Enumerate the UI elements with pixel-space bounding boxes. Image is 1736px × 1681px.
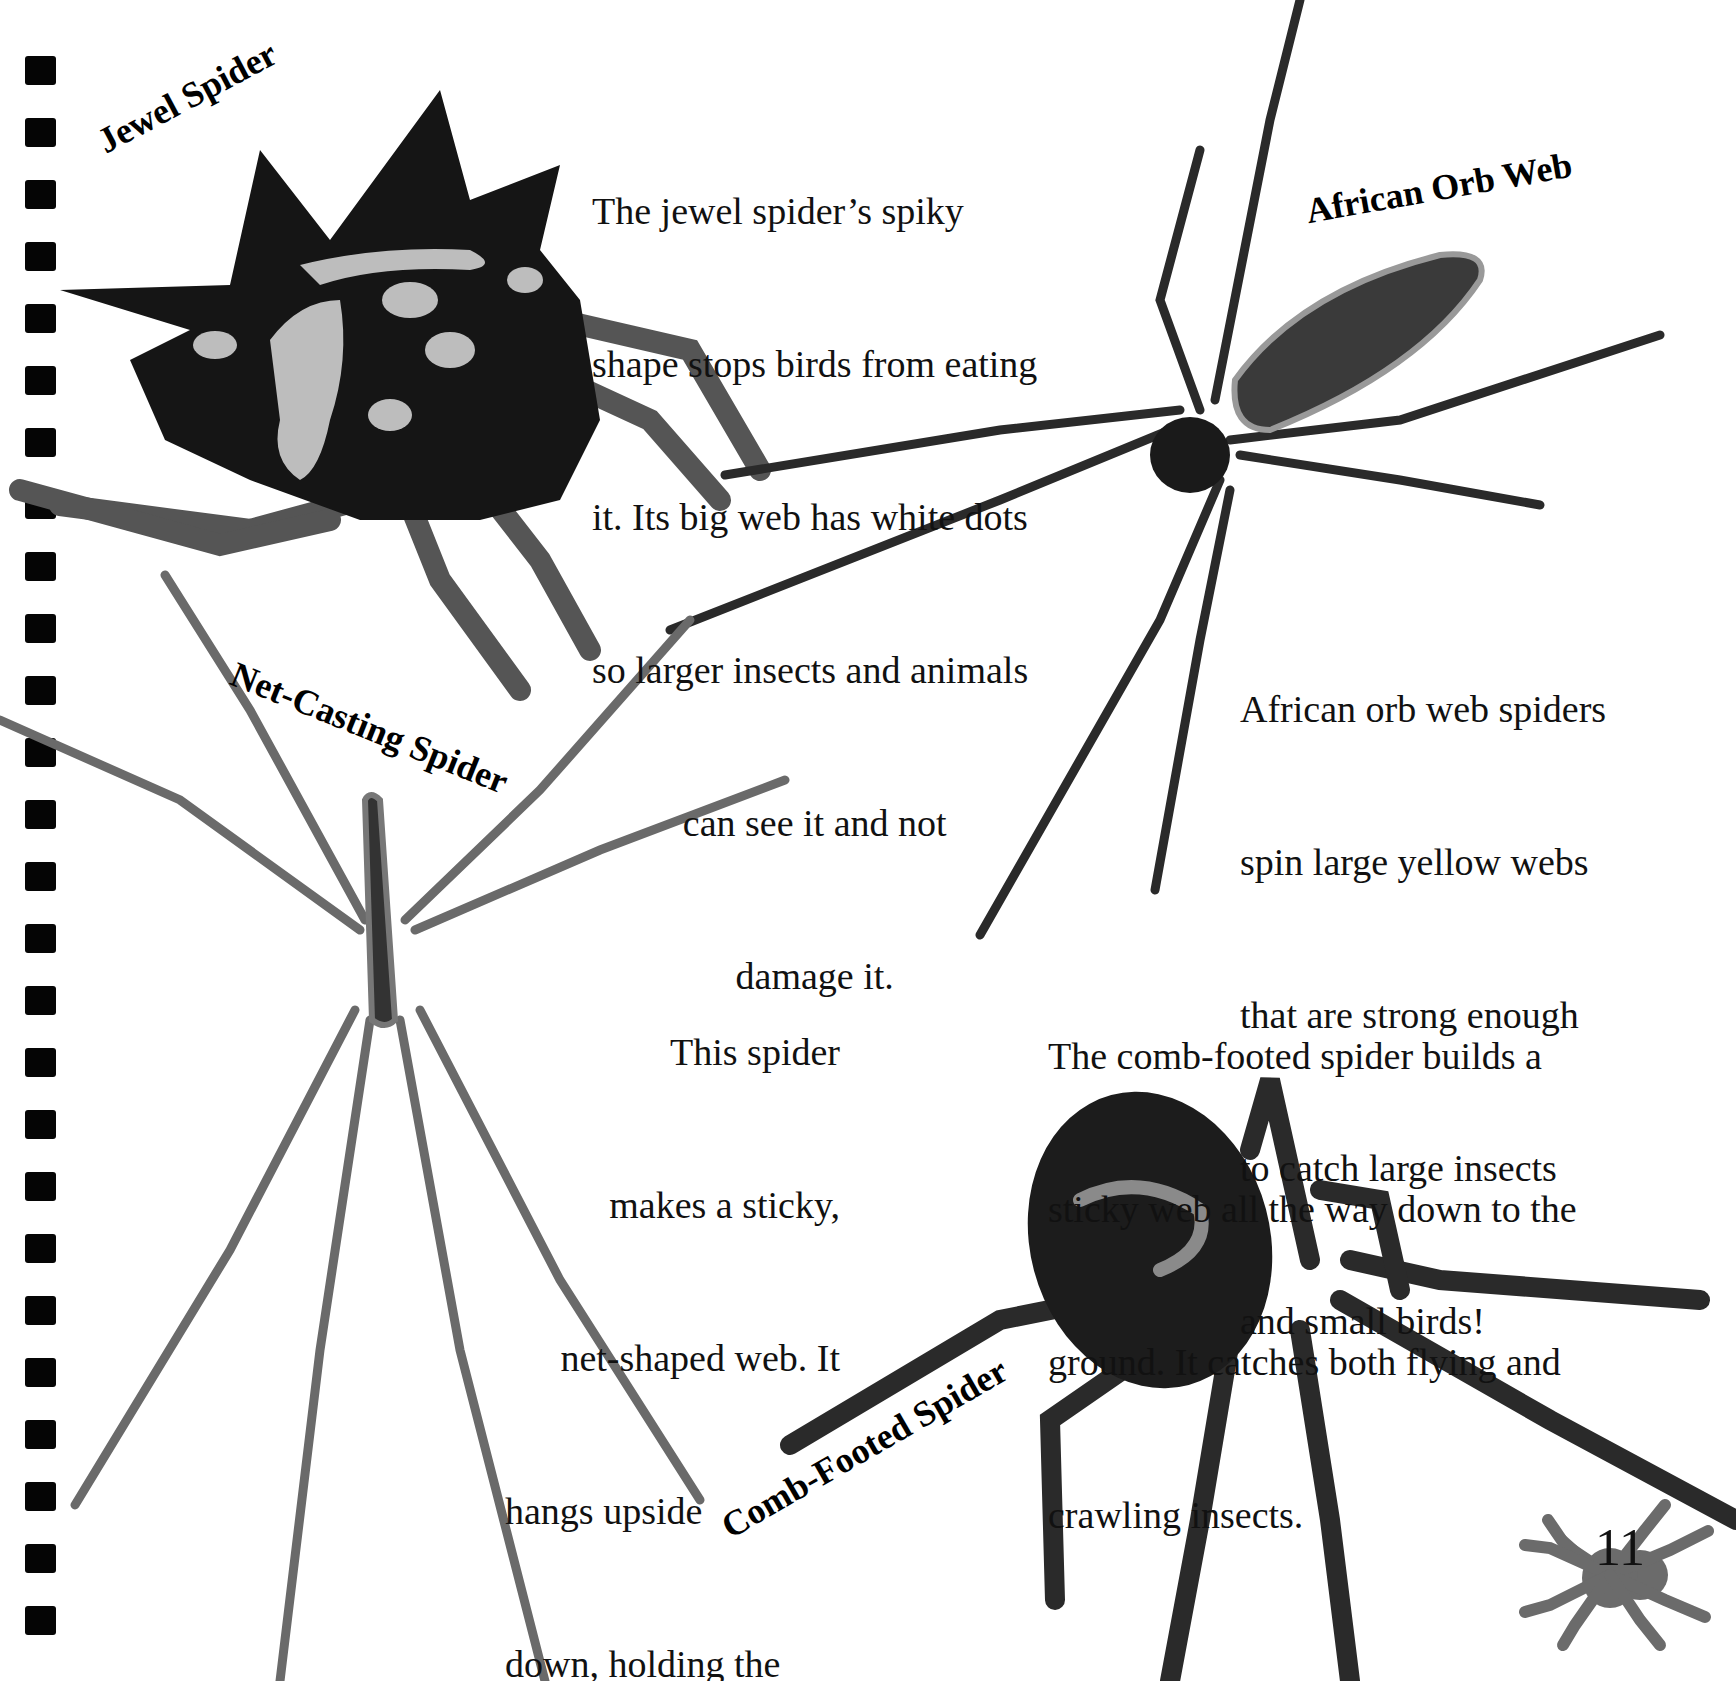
text-line: it. Its big web has white dots — [592, 492, 1037, 543]
text-line: makes a sticky, — [505, 1180, 840, 1231]
text-line: crawling insects. — [1048, 1490, 1577, 1541]
text-line: ground. It catches both flying and — [1048, 1337, 1577, 1388]
net-casting-spider-description: This spider makes a sticky, net-shaped w… — [505, 925, 840, 1681]
text-line: This spider — [505, 1027, 840, 1078]
text-line: so larger insects and animals — [592, 645, 1037, 696]
text-line: hangs upside — [505, 1486, 840, 1537]
text-line: The comb-footed spider builds a — [1048, 1031, 1577, 1082]
book-page: Jewel Spider African Orb Web Net-Casting… — [0, 0, 1736, 1681]
text-line: The jewel spider’s spiky — [592, 186, 1037, 237]
text-line: can see it and not — [592, 798, 1037, 849]
text-line: shape stops birds from eating — [592, 339, 1037, 390]
text-line: African orb web spiders — [1240, 684, 1606, 735]
text-line: down, holding the — [505, 1639, 840, 1681]
page-number: 11 — [1595, 1518, 1645, 1577]
comb-footed-spider-description: The comb-footed spider builds a sticky w… — [1048, 929, 1577, 1643]
text-line: spin large yellow webs — [1240, 837, 1606, 888]
text-line: sticky web all the way down to the — [1048, 1184, 1577, 1235]
text-line: net-shaped web. It — [505, 1333, 840, 1384]
